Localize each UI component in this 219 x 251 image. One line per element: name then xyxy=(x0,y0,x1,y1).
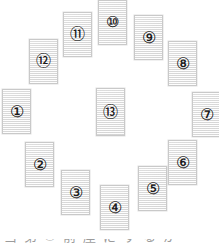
card-4-number-label: ④ xyxy=(108,200,122,216)
card-2[interactable]: ② xyxy=(25,142,54,187)
caption-glyph: か xyxy=(163,239,176,243)
caption-glyph: す xyxy=(123,239,136,243)
card-6-number-label: ⑥ xyxy=(176,155,190,171)
caption-glyph: ① xyxy=(44,239,56,243)
card-10[interactable]: ⑩ xyxy=(98,0,127,45)
card-13[interactable]: ⑬ xyxy=(96,88,125,136)
card-3-number-label: ③ xyxy=(69,185,83,201)
caption-glyph: 座 xyxy=(83,239,96,243)
caption-glyph: に xyxy=(103,239,116,243)
card-12-number-label: ⑫ xyxy=(36,54,51,69)
card-11[interactable]: ⑪ xyxy=(63,12,92,57)
card-6[interactable]: ⑥ xyxy=(168,140,197,185)
card-10-number-label: ⑩ xyxy=(106,15,119,30)
card-1[interactable]: ① xyxy=(2,89,31,134)
card-8[interactable]: ⑧ xyxy=(168,41,197,86)
caption-glyph: 当 xyxy=(4,239,17,243)
card-11-number-label: ⑪ xyxy=(70,27,85,42)
card-7[interactable]: ⑦ xyxy=(192,92,219,137)
card-7-number-label: ⑦ xyxy=(200,107,214,123)
card-13-number-label: ⑬ xyxy=(103,105,118,120)
card-5[interactable]: ⑤ xyxy=(138,166,167,211)
card-12[interactable]: ⑫ xyxy=(29,39,58,84)
card-5-number-label: ⑤ xyxy=(146,181,160,197)
card-2-number-label: ② xyxy=(33,157,47,173)
card-9-number-label: ⑨ xyxy=(142,30,156,46)
caption-glyph: 前 xyxy=(63,239,76,243)
card-9[interactable]: ⑨ xyxy=(134,15,163,60)
card-1-number-label: ① xyxy=(10,104,24,120)
caption-glyph: 第 xyxy=(24,239,37,243)
card-4[interactable]: ④ xyxy=(100,185,129,230)
caption-strip: 当第①前座にするか xyxy=(0,239,219,251)
card-8-number-label: ⑧ xyxy=(176,56,190,72)
card-3[interactable]: ③ xyxy=(61,170,90,215)
caption-glyph: る xyxy=(143,239,156,243)
card-ring-figure: ①②③④⑤⑥⑦⑧⑨⑩⑪⑫⑬ 当第①前座にするか xyxy=(0,0,219,251)
